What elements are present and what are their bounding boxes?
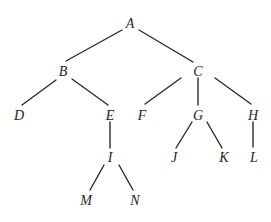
edge-a-b [66,30,122,61]
node-a: A [125,16,135,31]
node-c: C [193,64,203,79]
edge-g-k [207,122,222,148]
node-k: K [218,150,229,165]
edge-i-n [119,165,133,190]
tree-nodes: ABCDEFGHIJKLMN [13,16,259,208]
node-i: I [107,150,114,165]
tree-diagram: ABCDEFGHIJKLMN [0,0,271,222]
node-m: M [79,193,93,208]
edge-c-h [215,78,251,104]
edge-g-j [176,122,192,148]
edge-b-d [22,80,56,105]
node-e: E [105,108,115,123]
node-j: J [171,150,178,165]
node-n: N [129,193,140,208]
edge-c-f [145,78,181,104]
node-d: D [13,108,24,123]
node-f: F [137,108,147,123]
edge-i-m [90,165,104,190]
edge-b-e [72,79,108,105]
node-g: G [193,108,203,123]
node-l: L [249,150,258,165]
edge-a-c [139,30,193,62]
node-b: B [59,64,68,79]
node-h: H [247,108,259,123]
